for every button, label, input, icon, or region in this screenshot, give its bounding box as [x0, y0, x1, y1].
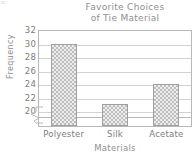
chart-title-line-1: Favorite Choices [60, 2, 190, 13]
bar-polyester [51, 44, 77, 126]
y-tick-26: 26 [25, 67, 36, 76]
y-tick-30: 30 [25, 40, 36, 49]
bar-acetate [153, 84, 179, 126]
x-axis-label: Materials [38, 143, 192, 153]
bar-chart: ≡ Favorite Choices of Tie Material Frequ… [0, 0, 194, 159]
x-tick-acetate: Acetate [136, 129, 194, 139]
y-tick-24: 24 [25, 80, 36, 89]
bar-silk [102, 104, 128, 126]
bar-series [38, 30, 192, 126]
x-axis-tick-labels: PolyesterSilkAcetate [38, 129, 192, 141]
edge-artifact: ≡ [0, 1, 5, 15]
x-axis-baseline [38, 126, 192, 127]
y-axis-label: Frequency [6, 27, 15, 87]
y-tick-22: 22 [25, 94, 36, 103]
chart-title-line-2: of Tie Material [60, 13, 190, 24]
chart-title: Favorite Choices of Tie Material [60, 2, 190, 24]
y-tick-32: 32 [25, 26, 36, 35]
y-tick-28: 28 [25, 53, 36, 62]
